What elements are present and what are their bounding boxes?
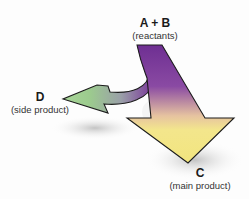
reaction-diagram: A + B (reactants) D (side product) C (ma…	[0, 0, 249, 199]
reactants-label: A + B (reactants)	[115, 17, 195, 41]
side-arrow-shadow	[50, 116, 140, 140]
side-product-symbol: D	[0, 91, 80, 104]
side-product-caption: (side product)	[0, 104, 80, 115]
main-product-label: C (main product)	[152, 167, 248, 191]
main-product-symbol: C	[152, 167, 248, 180]
reactants-caption: (reactants)	[115, 30, 195, 41]
side-product-label: D (side product)	[0, 91, 80, 115]
main-product-caption: (main product)	[152, 180, 248, 191]
reactants-symbol: A + B	[115, 17, 195, 30]
